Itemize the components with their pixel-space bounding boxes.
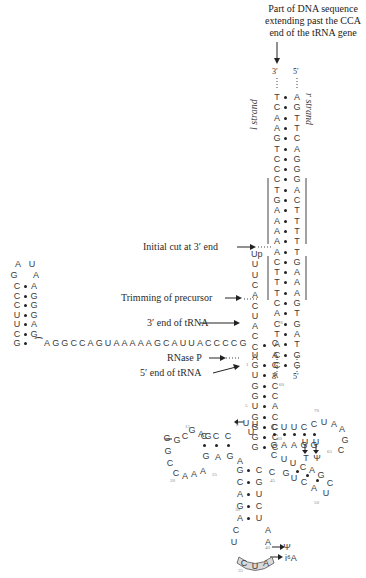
t-arm-base: U bbox=[320, 418, 328, 427]
t-arm-base: C bbox=[300, 423, 308, 432]
bottom-5prime: 5′ bbox=[293, 372, 299, 381]
base-pair-dot bbox=[263, 385, 266, 388]
initial-cut-label: Initial cut at 3′ end bbox=[143, 241, 218, 252]
anticodon-base: C bbox=[240, 559, 248, 568]
dna-base-r: C bbox=[293, 196, 301, 205]
precursor-base: C bbox=[251, 332, 259, 341]
hairpin-base: G bbox=[30, 301, 38, 310]
d-arm-base: C bbox=[166, 459, 174, 468]
d-arm-base: U bbox=[247, 428, 255, 437]
anticodon-arm-base: C bbox=[236, 478, 244, 487]
t-arm-base: A bbox=[280, 441, 288, 450]
d-arm-base: A bbox=[181, 472, 189, 481]
hairpin-base: U bbox=[13, 320, 21, 329]
loop-base: G bbox=[10, 271, 18, 280]
base-pair-dot bbox=[284, 199, 287, 202]
base-pair-dot bbox=[24, 323, 27, 326]
five-end-label: 5′ end of tRNA bbox=[140, 367, 201, 378]
anticodon-arm-base: A bbox=[264, 538, 272, 547]
acceptor-base-5: G bbox=[251, 443, 259, 452]
base-pair-dot bbox=[293, 433, 296, 436]
base-pair-dot bbox=[284, 354, 287, 357]
acceptor-base-3: A bbox=[271, 402, 279, 411]
dna-base-l: C bbox=[273, 175, 281, 184]
precursor-base: A bbox=[251, 291, 259, 300]
dna-base-r: A bbox=[293, 289, 301, 298]
dna-base-l: T bbox=[273, 93, 281, 102]
dna-base-r: T bbox=[293, 124, 301, 133]
position-number: 76 bbox=[278, 320, 283, 325]
trimming-label: Trimming of precursor bbox=[121, 292, 212, 303]
dna-base-r: G bbox=[293, 351, 301, 360]
t-arm-base: G bbox=[341, 436, 349, 445]
base-pair-dot bbox=[273, 433, 276, 436]
base-pair-dot bbox=[247, 493, 250, 496]
base-pair-dot bbox=[284, 230, 287, 233]
base-pair-dot bbox=[247, 469, 250, 472]
base-pair-dot bbox=[247, 505, 250, 508]
base-pair-dot bbox=[24, 342, 27, 345]
pseudouridine-mod: Ψ bbox=[283, 543, 291, 552]
acceptor-base: A bbox=[271, 351, 279, 360]
base-pair-dot bbox=[263, 426, 266, 429]
d-arm-base: A bbox=[214, 453, 222, 462]
dna-base-r: G bbox=[293, 155, 301, 164]
leader-sequence: ⁀AGGCCAGUAAAAAGCAUUACCCCG bbox=[35, 339, 249, 348]
t-arm-base: U bbox=[289, 459, 297, 468]
base-pair-dot bbox=[284, 323, 287, 326]
base-pair-dot bbox=[306, 474, 309, 477]
dna-base-r: T bbox=[293, 309, 301, 318]
d-arm-base: G bbox=[226, 452, 234, 461]
t-arm-base: A bbox=[330, 420, 338, 429]
base-pair-dot bbox=[284, 148, 287, 151]
dna-base-r: T bbox=[293, 217, 301, 226]
base-pair-dot bbox=[284, 127, 287, 130]
anticodon-arm-base: C bbox=[255, 466, 263, 475]
d-arm-base: A bbox=[190, 470, 198, 479]
anticodon-base: U bbox=[251, 562, 259, 571]
rnase-p-label: RNase P bbox=[167, 352, 202, 363]
anticodon-arm-base: A bbox=[264, 526, 272, 535]
anticodon-arm-base: C bbox=[255, 502, 263, 511]
dna-base-r: A bbox=[293, 145, 301, 154]
dna-base-l: T bbox=[273, 268, 281, 277]
anticodon-arm-base: G bbox=[255, 478, 263, 487]
d-arm-base: G bbox=[202, 452, 210, 461]
base-pair-dot bbox=[284, 220, 287, 223]
base-pair-dot bbox=[247, 481, 250, 484]
base-pair-dot bbox=[284, 96, 287, 99]
base-pair-dot bbox=[283, 433, 286, 436]
base-pair-dot bbox=[24, 314, 27, 317]
d-arm-base: G bbox=[163, 434, 171, 443]
dna-base-l: A bbox=[273, 124, 281, 133]
precursor-base: U bbox=[251, 271, 259, 280]
acceptor-base-3: C bbox=[271, 361, 279, 370]
acceptor-base-3: A bbox=[271, 371, 279, 380]
dna-base-l: C bbox=[273, 165, 281, 174]
dna-base-l: C bbox=[273, 155, 281, 164]
t-arm-base: U bbox=[322, 489, 330, 498]
acceptor-base-5: G bbox=[251, 382, 259, 391]
hairpin-base: A bbox=[30, 282, 38, 291]
t-arm-base: C bbox=[270, 451, 278, 460]
dna-base-r: G bbox=[293, 103, 301, 112]
dna-base-l: T bbox=[273, 145, 281, 154]
base-pair-dot bbox=[284, 261, 287, 264]
position-number: 8 bbox=[236, 422, 239, 427]
top-3prime: 3′ bbox=[272, 67, 278, 76]
t-arm-base: U bbox=[312, 438, 320, 447]
dna-base-l: A bbox=[273, 227, 281, 236]
dna-base-l: A bbox=[273, 248, 281, 257]
dna-base-r: A bbox=[293, 186, 301, 195]
dna-base-r: G bbox=[293, 299, 301, 308]
t-arm-base: A bbox=[338, 425, 346, 434]
d-arm-base: G bbox=[188, 426, 196, 435]
t-arm-base: C bbox=[270, 423, 278, 432]
position-number: 50 bbox=[314, 500, 319, 505]
top-5prime: 5′ bbox=[293, 67, 299, 76]
base-pair-dot bbox=[284, 302, 287, 305]
position-number: 25 bbox=[212, 472, 217, 477]
dna-base-r: A bbox=[293, 268, 301, 277]
precursor-base: U bbox=[251, 312, 259, 321]
base-pair-dot bbox=[203, 444, 206, 447]
